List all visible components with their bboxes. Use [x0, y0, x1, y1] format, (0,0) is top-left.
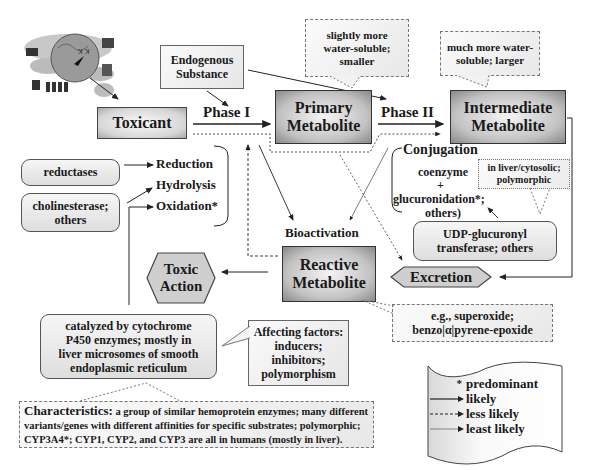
- cyp450-line1: catalyzed by cytochrome: [65, 319, 191, 333]
- characteristics-heading: Characteristics:: [24, 403, 113, 418]
- label-bioactivation: Bioactivation: [285, 225, 359, 241]
- reactive-line2: Metabolite: [292, 274, 366, 292]
- node-toxic-action: Toxic Action: [146, 252, 216, 304]
- callout-text: smaller: [340, 55, 375, 68]
- legend-label: predominant: [466, 376, 538, 391]
- callout-pointer: [80, 380, 190, 402]
- callout-text: inducers;: [275, 339, 323, 353]
- callout-affecting-factors: Affecting factors: inducers; inhibitors;…: [248, 320, 349, 386]
- callout-much-more-water-soluble: much more water- soluble; larger: [440, 31, 540, 76]
- callout-pointer: [455, 75, 495, 89]
- callout-text: inhibitors;: [271, 353, 325, 367]
- udp-line1: UDP-glucuronyl: [443, 227, 527, 241]
- legend-label: less likely: [466, 406, 519, 421]
- label-phase-2: Phase II: [381, 104, 434, 121]
- callout-text: much more water-: [447, 41, 533, 54]
- callout-characteristics: Characteristics: a group of similar hemo…: [19, 401, 374, 448]
- toxic-action-line1: Toxic: [164, 261, 198, 278]
- callout-pointer: [330, 76, 370, 90]
- node-cholinesterase: cholinesterase; others: [21, 193, 120, 232]
- node-cytochrome-p450-description: catalyzed by cytochrome P450 enzymes; mo…: [40, 314, 217, 379]
- callout-text: in liver/cytosolic;: [487, 162, 560, 174]
- solid-arrow-icon: [428, 394, 466, 404]
- asterisk-icon: *: [428, 376, 466, 391]
- legend-item-predominant: *predominant: [428, 376, 558, 391]
- characteristics-line2: variants/genes with different affinities…: [24, 419, 369, 433]
- callout-example-reactive-metabolites: e.g., superoxide; benzo|α|pyrene-epoxide: [392, 304, 553, 342]
- legend-item-likely: likely: [428, 391, 558, 406]
- label-conjugation: Conjugation: [403, 142, 478, 158]
- callout-slightly-more-water-soluble: slightly more water-soluble; smaller: [305, 19, 409, 77]
- primary-line1: Primary: [295, 99, 353, 117]
- legend-label: least likely: [466, 421, 525, 436]
- legend: *predominant likely less likely least li…: [428, 376, 558, 436]
- polluted-earth-illustration: ꓘ ꓘ: [18, 18, 118, 100]
- cholinesterase-line2: others: [55, 213, 87, 227]
- callout-text: e.g., superoxide;: [431, 309, 514, 323]
- callout-text: water-soluble;: [324, 42, 391, 55]
- udp-line2: transferase; others: [437, 241, 533, 255]
- characteristics-line1: Characteristics: a group of similar hemo…: [24, 404, 369, 419]
- callout-pointer: [222, 326, 252, 350]
- callout-pointer: [530, 188, 560, 218]
- label-glucuronidation: glucuronidation*;: [393, 192, 485, 207]
- legend-item-least-likely: least likely: [428, 421, 558, 436]
- characteristics-text: a group of similar hemoprotein enzymes; …: [113, 406, 368, 417]
- cyp450-line4: endoplasmic reticulum: [70, 361, 187, 375]
- endogenous-line1: Endogenous: [171, 53, 234, 67]
- intermediate-line2: Metabolite: [471, 117, 545, 135]
- thin-arrow-icon: [428, 424, 466, 434]
- toxic-action-line2: Action: [160, 278, 203, 295]
- callout-text: polymorphism: [261, 367, 336, 381]
- callout-text: Affecting factors:: [254, 325, 344, 339]
- label-others-paren: others): [425, 206, 461, 221]
- cholinesterase-line1: cholinesterase;: [33, 199, 109, 213]
- callout-in-liver-cytosolic: in liver/cytosolic; polymorphic: [478, 159, 570, 189]
- node-udp-glucuronyl-transferase: UDP-glucuronyl transferase; others: [413, 221, 557, 261]
- reductases-label: reductases: [44, 165, 98, 180]
- node-endogenous-substance: Endogenous Substance: [160, 45, 244, 89]
- dashed-arrow-icon: [428, 409, 466, 419]
- callout-text: slightly more: [326, 29, 387, 42]
- legend-label: likely: [466, 391, 496, 406]
- cyp450-line3: liver microsomes of smooth: [59, 347, 199, 361]
- label-phase-1: Phase I: [203, 104, 250, 121]
- node-intermediate-metabolite: Intermediate Metabolite: [450, 90, 566, 144]
- toxicant-label: Toxicant: [113, 114, 172, 132]
- svg-text:ꓘ ꓘ: ꓘ ꓘ: [77, 48, 90, 56]
- label-plus: +: [437, 178, 444, 193]
- cyp450-line2: P450 enzymes; mostly in: [66, 333, 192, 347]
- node-primary-metabolite: Primary Metabolite: [275, 90, 372, 144]
- node-reactive-metabolite: Reactive Metabolite: [282, 246, 376, 302]
- characteristics-line3: CYP3A4*; CYP1, CYP2, and CYP3 are all in…: [24, 433, 369, 447]
- excretion-label: Excretion: [410, 269, 472, 286]
- label-reduction: Reduction: [156, 156, 213, 172]
- label-oxidation: Oxidation*: [156, 198, 218, 214]
- endogenous-line2: Substance: [176, 67, 228, 81]
- callout-text: benzo|α|pyrene-epoxide: [412, 323, 532, 337]
- node-excretion: Excretion: [390, 266, 492, 288]
- callout-pointer: [362, 300, 396, 320]
- reactive-line1: Reactive: [300, 256, 359, 274]
- earth-icon: ꓘ ꓘ: [18, 18, 118, 100]
- node-reductases: reductases: [21, 159, 120, 186]
- node-toxicant: Toxicant: [97, 107, 187, 139]
- legend-item-less-likely: less likely: [428, 406, 558, 421]
- primary-line2: Metabolite: [287, 117, 361, 135]
- intermediate-line1: Intermediate: [464, 99, 553, 117]
- callout-text: polymorphic: [497, 174, 551, 186]
- callout-text: soluble; larger: [456, 54, 524, 67]
- label-hydrolysis: Hydrolysis: [156, 177, 216, 193]
